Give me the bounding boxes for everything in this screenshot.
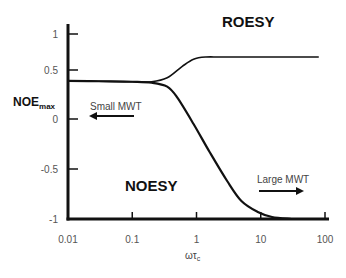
y-tick-label: -1 — [49, 214, 58, 225]
annotation-small-mwt: Small MWT — [90, 101, 142, 112]
annotation-large-mwt: Large MWT — [257, 174, 309, 185]
y-axis-label: NOEmax — [13, 95, 56, 111]
x-tick-label: 0.01 — [58, 234, 78, 245]
y-tick-label: 1 — [52, 29, 58, 40]
x-tick-label: 100 — [317, 234, 334, 245]
y-tick-label: 0 — [52, 114, 58, 125]
series-line-roesy — [68, 57, 319, 82]
series-group — [68, 57, 319, 219]
x-tick-label: 1 — [194, 234, 200, 245]
annotation-roesy: ROESY — [222, 13, 275, 30]
noe-chart: 10.50-0.5-10.010.1110100 ROESY NOESY Sma… — [0, 0, 346, 278]
y-tick-label: -0.5 — [41, 164, 59, 175]
annotation-noesy: NOESY — [125, 177, 178, 194]
x-axis-label: ωτc — [185, 250, 201, 262]
x-tick-label: 10 — [255, 234, 267, 245]
y-tick-label: 0.5 — [44, 65, 58, 76]
x-tick-label: 0.1 — [125, 234, 139, 245]
